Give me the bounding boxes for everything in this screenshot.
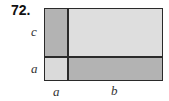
horizontal-divider (44, 56, 163, 58)
region-b-by-a (68, 57, 163, 81)
label-bottom-left: a (53, 85, 60, 98)
problem-number: 72. (11, 3, 30, 17)
region-a-by-c (44, 8, 68, 57)
label-bottom-right: b (111, 84, 118, 97)
label-left-top: c (31, 25, 37, 38)
vertical-divider (67, 8, 69, 81)
region-b-by-c (68, 8, 163, 57)
label-left-bottom: a (31, 62, 38, 75)
region-a-by-a (44, 57, 68, 81)
